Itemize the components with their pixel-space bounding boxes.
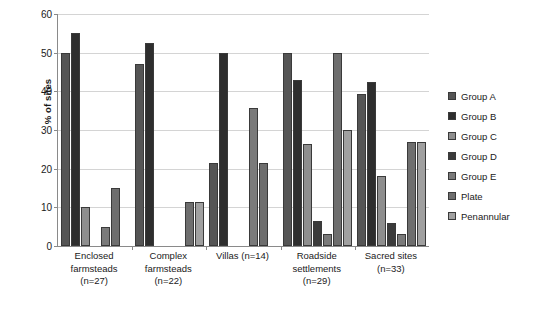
legend-label: Plate	[461, 191, 483, 202]
bar[interactable]	[101, 227, 110, 246]
bar-slot	[155, 14, 164, 246]
bar-slot	[407, 14, 416, 246]
legend-swatch-icon	[448, 112, 456, 120]
x-axis-label-line: farmsteads	[132, 263, 204, 276]
bar-slot	[121, 14, 130, 246]
x-axis-label: Enclosedfarmsteads(n=27)	[57, 250, 131, 312]
x-axis-label-line: Roadside	[281, 250, 353, 263]
bar[interactable]	[71, 33, 80, 246]
bar-slot	[259, 14, 268, 246]
bar-slot	[239, 14, 248, 246]
x-axis-label: Complexfarmsteads(n=22)	[131, 250, 205, 312]
x-axis-label-line: farmsteads	[58, 263, 130, 276]
bars-layer	[58, 14, 429, 246]
legend-label: Penannular	[461, 211, 510, 222]
bar[interactable]	[111, 188, 120, 246]
legend-swatch-icon	[448, 92, 456, 100]
bar-slot	[229, 14, 238, 246]
bar[interactable]	[357, 94, 366, 246]
legend-item[interactable]: Group E	[448, 166, 546, 186]
bar-slot	[71, 14, 80, 246]
bar[interactable]	[209, 163, 218, 246]
bar-slot	[101, 14, 110, 246]
y-axis-tick-labels: 0102030405060	[22, 14, 52, 246]
bar[interactable]	[195, 202, 204, 246]
bar-slot	[135, 14, 144, 246]
legend-swatch-icon	[448, 152, 456, 160]
bar-slot	[333, 14, 342, 246]
plot-area	[57, 14, 429, 246]
y-tick-label: 50	[22, 47, 52, 58]
legend-item[interactable]: Group B	[448, 106, 546, 126]
x-axis-label-line: Complex	[132, 250, 204, 263]
bar-slot	[357, 14, 366, 246]
legend-item[interactable]: Group C	[448, 126, 546, 146]
bar-slot	[249, 14, 258, 246]
x-axis-label-line: (n=27)	[58, 275, 130, 288]
x-axis-label-line: Villas (n=14)	[206, 250, 278, 263]
bar-slot	[91, 14, 100, 246]
legend-swatch-icon	[448, 212, 456, 220]
bar[interactable]	[397, 234, 406, 246]
bar-slot	[195, 14, 204, 246]
bar-slot	[145, 14, 154, 246]
y-axis-tickmark	[54, 246, 58, 247]
legend-label: Group E	[461, 171, 496, 182]
bar-slot	[269, 14, 278, 246]
x-axis-category-labels: Enclosedfarmsteads(n=27)Complexfarmstead…	[57, 250, 428, 312]
legend-item[interactable]: Penannular	[448, 206, 546, 226]
legend-item[interactable]: Group A	[448, 86, 546, 106]
y-tick-label: 40	[22, 86, 52, 97]
legend-swatch-icon	[448, 132, 456, 140]
x-axis-label: Villas (n=14)	[205, 250, 279, 312]
bar-slot	[185, 14, 194, 246]
legend-label: Group A	[461, 91, 496, 102]
bar[interactable]	[61, 53, 70, 246]
y-tick-label: 0	[22, 241, 52, 252]
x-axis-label-line: (n=29)	[281, 275, 353, 288]
bar-group	[206, 14, 280, 246]
chart-legend: Group AGroup BGroup CGroup DGroup EPlate…	[448, 86, 546, 226]
y-tick-label: 60	[22, 9, 52, 20]
bar-slot	[81, 14, 90, 246]
bar[interactable]	[185, 202, 194, 246]
legend-label: Group C	[461, 131, 497, 142]
bar[interactable]	[283, 53, 292, 246]
bar[interactable]	[333, 53, 342, 246]
bar[interactable]	[323, 234, 332, 246]
bar[interactable]	[81, 207, 90, 246]
bar[interactable]	[313, 221, 322, 246]
x-axis-label: Sacred sites(n=33)	[354, 250, 428, 312]
bar[interactable]	[303, 144, 312, 246]
bar-slot	[303, 14, 312, 246]
bar-slot	[283, 14, 292, 246]
bar[interactable]	[367, 82, 376, 246]
legend-item[interactable]: Plate	[448, 186, 546, 206]
bar[interactable]	[293, 80, 302, 246]
bar[interactable]	[343, 130, 352, 246]
x-axis-label-line: (n=22)	[132, 275, 204, 288]
bar-slot	[367, 14, 376, 246]
bar-slot	[397, 14, 406, 246]
bar-group	[355, 14, 429, 246]
legend-swatch-icon	[448, 172, 456, 180]
legend-item[interactable]: Group D	[448, 146, 546, 166]
bar[interactable]	[249, 108, 258, 246]
bar[interactable]	[135, 64, 144, 246]
bar-slot	[219, 14, 228, 246]
bar[interactable]	[377, 176, 386, 246]
bar-slot	[323, 14, 332, 246]
legend-label: Group D	[461, 151, 497, 162]
bar[interactable]	[145, 43, 154, 246]
bar-slot	[165, 14, 174, 246]
bar-group	[58, 14, 132, 246]
bar[interactable]	[259, 163, 268, 246]
bar[interactable]	[407, 142, 416, 246]
bar[interactable]	[417, 142, 426, 246]
bar[interactable]	[219, 53, 228, 246]
bar-slot	[313, 14, 322, 246]
legend-swatch-icon	[448, 192, 456, 200]
bar[interactable]	[387, 223, 396, 246]
x-axis-label-line: settlements	[281, 263, 353, 276]
bar-slot	[377, 14, 386, 246]
